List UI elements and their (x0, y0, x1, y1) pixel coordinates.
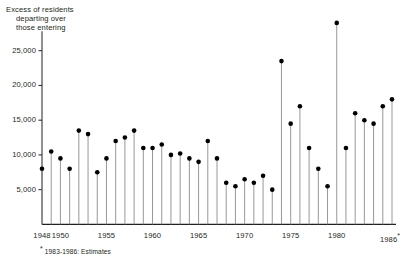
x-axis-tick-label: 1950 (40, 232, 80, 240)
data-point (187, 156, 192, 224)
data-point (113, 139, 118, 225)
data-point (334, 21, 339, 225)
data-point-marker (371, 121, 376, 126)
data-point (169, 153, 174, 225)
data-point-marker (362, 118, 367, 123)
data-point-marker (187, 156, 192, 161)
data-point-marker (279, 59, 284, 64)
y-axis-tick-label: 10,000 (0, 151, 36, 159)
x-axis-tick-label: 1986 (370, 232, 410, 244)
data-point-marker (307, 146, 312, 151)
y-axis-tick-label: 5,000 (0, 186, 36, 194)
data-point-marker (104, 156, 109, 161)
footnote-marker: * (40, 245, 43, 252)
data-point (58, 156, 63, 224)
data-point (362, 118, 367, 225)
data-point-marker (270, 187, 275, 192)
data-point-marker (141, 146, 146, 151)
data-point-marker (196, 160, 201, 165)
data-point-marker (224, 180, 229, 185)
data-point-marker (67, 167, 72, 172)
x-axis-tick-label: 1955 (86, 232, 126, 240)
data-point (141, 146, 146, 225)
data-point-marker (288, 121, 293, 126)
plot-svg (0, 0, 410, 264)
data-point (205, 139, 210, 225)
data-point-marker (113, 139, 118, 144)
data-point-marker (380, 104, 385, 109)
data-point (224, 180, 229, 224)
data-point (178, 151, 183, 224)
data-point-marker (86, 132, 91, 137)
data-point-marker (298, 104, 303, 109)
x-axis-tick-label: 1970 (225, 232, 265, 240)
data-point (298, 104, 303, 224)
data-point (353, 111, 358, 224)
data-point (380, 104, 385, 224)
data-point-marker (159, 142, 164, 147)
data-point (279, 59, 284, 225)
chart-footnote: *1983-1986: Estimates (40, 245, 111, 256)
data-point-marker (132, 128, 137, 133)
data-point (49, 149, 54, 224)
data-point (159, 142, 164, 224)
data-point (40, 167, 45, 225)
x-axis-tick-label: 1965 (179, 232, 219, 240)
data-point-marker (334, 21, 339, 26)
plot-area (0, 0, 410, 264)
data-point-marker (252, 180, 257, 185)
data-point-marker (95, 170, 100, 175)
data-point (252, 180, 257, 224)
data-point (150, 146, 155, 225)
data-point (86, 132, 91, 225)
data-point-marker (316, 167, 321, 172)
data-point-marker (58, 156, 63, 161)
data-point (104, 156, 109, 224)
data-point-marker (150, 146, 155, 151)
data-point-marker (77, 128, 82, 133)
data-point (95, 170, 100, 224)
data-point-marker (123, 135, 128, 140)
x-axis-tick-label: 1975 (271, 232, 311, 240)
data-point (316, 167, 321, 225)
data-point-marker (178, 151, 183, 156)
data-point (123, 135, 128, 224)
data-point (307, 146, 312, 225)
data-point (390, 97, 395, 224)
data-point-marker (242, 177, 247, 182)
data-point (77, 128, 82, 224)
data-point-marker (261, 173, 266, 178)
data-point-marker (205, 139, 210, 144)
x-axis-tick-label: 1980 (317, 232, 357, 240)
data-point-marker (325, 184, 330, 189)
data-point-marker (49, 149, 54, 154)
data-point (344, 146, 349, 225)
data-point (215, 156, 220, 224)
x-axis-tick-label: 1960 (133, 232, 173, 240)
data-point (233, 184, 238, 225)
chart-figure: Excess of residents departing over those… (0, 0, 410, 264)
data-point-marker (233, 184, 238, 189)
data-point-marker (215, 156, 220, 161)
data-point (196, 160, 201, 225)
data-point-marker (353, 111, 358, 116)
data-point (371, 121, 376, 224)
data-point-marker (344, 146, 349, 151)
data-point (132, 128, 137, 224)
data-point-marker (169, 153, 174, 158)
data-point-marker (40, 167, 45, 172)
data-point (67, 167, 72, 225)
data-point (242, 177, 247, 224)
data-point (288, 121, 293, 224)
y-axis-tick-label: 20,000 (0, 81, 36, 89)
data-point (270, 187, 275, 224)
y-axis-tick-label: 15,000 (0, 116, 36, 124)
data-point (325, 184, 330, 225)
footnote-text: 1983-1986: Estimates (45, 248, 111, 255)
data-point-marker (390, 97, 395, 102)
data-point (261, 173, 266, 224)
y-axis-tick-label: 25,000 (0, 47, 36, 55)
